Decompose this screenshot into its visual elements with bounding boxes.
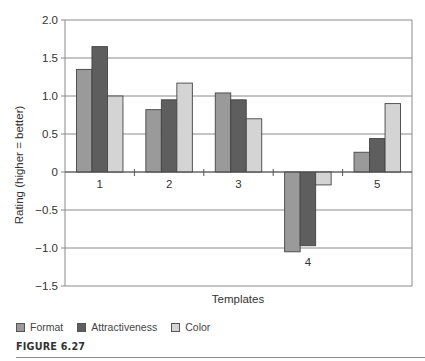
x-tick-label: 4 xyxy=(305,256,312,268)
bar-color-template-4 xyxy=(316,172,332,185)
x-tick-labels: 12345 xyxy=(96,178,380,268)
bar-chart: 2.01.51.00.50−0.5−1.0−1.5 12345 Rating (… xyxy=(0,0,425,320)
legend-item-color: Color xyxy=(171,321,210,333)
x-tick-label: 1 xyxy=(96,178,102,190)
attractiveness-swatch-icon xyxy=(77,323,86,332)
x-tick-label: 2 xyxy=(166,178,172,190)
y-tick-label: 1.0 xyxy=(42,90,58,102)
bars xyxy=(76,47,400,252)
x-tick-label: 5 xyxy=(374,178,380,190)
legend-label: Attractiveness xyxy=(91,321,157,333)
x-axis-label: Templates xyxy=(212,293,265,305)
y-tick-label: −1.0 xyxy=(35,242,58,254)
y-tick-label: 1.5 xyxy=(42,52,58,64)
y-axis-label: Rating (higher = better) xyxy=(13,106,25,225)
legend-item-format: Format xyxy=(16,321,63,333)
y-tick-label: 0 xyxy=(52,166,58,178)
format-swatch-icon xyxy=(16,323,25,332)
legend-label: Color xyxy=(185,321,210,333)
figure-caption: FIGURE 6.27 xyxy=(16,340,85,353)
bar-format-template-5 xyxy=(354,152,370,172)
bar-format-template-2 xyxy=(146,110,162,172)
y-tick-label: −0.5 xyxy=(35,204,58,216)
bar-color-template-1 xyxy=(107,96,123,172)
bar-color-template-2 xyxy=(177,83,193,172)
bar-color-template-3 xyxy=(246,119,262,172)
bar-format-template-1 xyxy=(76,69,92,172)
bar-format-template-4 xyxy=(285,172,301,252)
y-tick-labels: 2.01.51.00.50−0.5−1.0−1.5 xyxy=(35,14,58,292)
bar-attractiveness-template-1 xyxy=(92,47,108,172)
bar-format-template-3 xyxy=(215,93,231,172)
legend: Format Attractiveness Color xyxy=(16,321,224,333)
x-tick-label: 3 xyxy=(235,178,241,190)
bar-attractiveness-template-4 xyxy=(300,172,316,246)
caption-rule xyxy=(16,357,425,358)
legend-item-attractiveness: Attractiveness xyxy=(77,321,157,333)
bar-color-template-5 xyxy=(385,104,401,172)
color-swatch-icon xyxy=(171,323,180,332)
y-tick-label: −1.5 xyxy=(35,280,58,292)
y-tick-label: 2.0 xyxy=(42,14,58,26)
bar-attractiveness-template-2 xyxy=(161,100,177,172)
y-tick-label: 0.5 xyxy=(42,128,58,140)
bar-attractiveness-template-5 xyxy=(370,139,386,172)
legend-label: Format xyxy=(30,321,63,333)
bar-attractiveness-template-3 xyxy=(231,100,247,172)
